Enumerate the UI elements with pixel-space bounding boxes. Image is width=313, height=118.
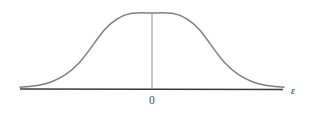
distribution-chart-svg: 0 ε (0, 0, 313, 118)
horizontal-axis-line (20, 89, 283, 90)
normal-distribution-figure: 0 ε (0, 0, 313, 118)
axis-variable-label-epsilon: ε (291, 85, 295, 96)
origin-tick-label: 0 (149, 94, 155, 106)
